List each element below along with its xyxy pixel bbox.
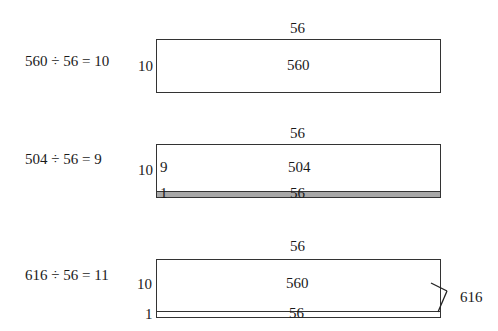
brace-label-3: 616 [460, 290, 483, 305]
equation-2: 504 ÷ 56 = 9 [25, 152, 102, 167]
strip-side-label-3: 1 [145, 307, 153, 322]
center-label-3: 560 [286, 276, 309, 291]
center-label-1: 560 [287, 58, 310, 73]
equation-3: 616 ÷ 56 = 11 [25, 268, 109, 283]
equation-1: 560 ÷ 56 = 10 [25, 54, 109, 69]
inner-side-label-2: 9 [160, 160, 168, 175]
side-label-2: 10 [138, 163, 153, 178]
side-label-1: 10 [138, 59, 153, 74]
strip-label-3: 56 [289, 306, 304, 321]
side-label-3: 10 [137, 277, 152, 292]
center-label-2: 504 [288, 160, 311, 175]
top-label-1: 56 [290, 21, 305, 36]
top-label-2: 56 [290, 126, 305, 141]
brace-icon [425, 280, 465, 320]
top-label-3: 56 [290, 239, 305, 254]
strip-side-label-2: 1 [160, 186, 168, 201]
strip-label-2: 56 [290, 186, 305, 201]
